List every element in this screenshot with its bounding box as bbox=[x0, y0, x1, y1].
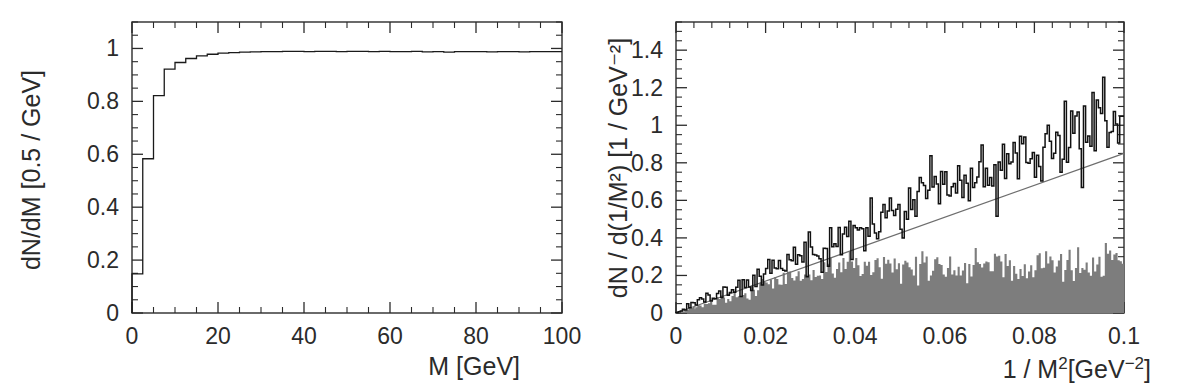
y-tick-label: 0.8 bbox=[87, 88, 119, 114]
x-tick-label: 0.04 bbox=[833, 323, 878, 349]
right-y-axis-title: dN / d(1/M²) [1 / GeV⁻²] bbox=[604, 38, 632, 298]
x-axis-title-part: 1 / M bbox=[1003, 355, 1059, 383]
right-x-axis-title: 1 / M2[GeV−2] bbox=[1003, 354, 1151, 383]
x-tick-label: 100 bbox=[543, 323, 581, 349]
x-tick-label: 0 bbox=[670, 323, 683, 349]
x-tick-label: 0.08 bbox=[1012, 323, 1057, 349]
left-axes: 02040608010000.20.40.60.81 bbox=[87, 22, 581, 349]
y-tick-label: 1.2 bbox=[631, 75, 663, 101]
y-tick-label: 0.8 bbox=[631, 150, 663, 176]
x-tick-label: 60 bbox=[377, 323, 403, 349]
y-tick-label: 0 bbox=[650, 300, 663, 326]
x-axis-title-part: −2 bbox=[1125, 354, 1144, 373]
right-plot-svg: 00.020.040.060.080.100.20.40.60.811.21.4… bbox=[591, 0, 1182, 392]
left-x-axis-title: M [GeV] bbox=[428, 352, 520, 380]
y-tick-label: 0 bbox=[106, 300, 119, 326]
left-step-histogram bbox=[132, 51, 562, 313]
y-tick-label: 0.2 bbox=[87, 247, 119, 273]
x-tick-label: 0.06 bbox=[922, 323, 967, 349]
x-tick-label: 0.02 bbox=[743, 323, 788, 349]
background-filled-histogram bbox=[676, 243, 1124, 313]
x-tick-label: 20 bbox=[205, 323, 231, 349]
plot-frame bbox=[132, 22, 562, 313]
x-axis-title-part: 2 bbox=[1058, 354, 1067, 373]
x-axis-title-part: ] bbox=[1144, 355, 1151, 383]
y-tick-label: 0.6 bbox=[87, 141, 119, 167]
y-tick-label: 1 bbox=[106, 35, 119, 61]
y-tick-label: 1.4 bbox=[631, 37, 663, 63]
left-data-series bbox=[132, 51, 562, 313]
y-tick-label: 0.6 bbox=[631, 187, 663, 213]
x-tick-label: 80 bbox=[463, 323, 489, 349]
right-data-series bbox=[676, 77, 1124, 313]
left-plot-svg: 02040608010000.20.40.60.81 dN/dM [0.5 / … bbox=[0, 0, 591, 392]
y-tick-label: 0.2 bbox=[631, 262, 663, 288]
x-tick-label: 0.1 bbox=[1108, 323, 1140, 349]
x-tick-label: 0 bbox=[126, 323, 139, 349]
y-tick-label: 0.4 bbox=[87, 194, 119, 220]
left-y-axis-title: dN/dM [0.5 / GeV] bbox=[17, 70, 45, 270]
y-tick-label: 0.4 bbox=[631, 225, 663, 251]
left-plot-panel: 02040608010000.20.40.60.81 dN/dM [0.5 / … bbox=[0, 0, 591, 392]
physics-figure: 02040608010000.20.40.60.81 dN/dM [0.5 / … bbox=[0, 0, 1182, 392]
x-tick-label: 40 bbox=[291, 323, 317, 349]
x-axis-title-part: [GeV bbox=[1068, 355, 1125, 383]
right-plot-panel: 00.020.040.060.080.100.20.40.60.811.21.4… bbox=[591, 0, 1182, 392]
y-tick-label: 1 bbox=[650, 112, 663, 138]
